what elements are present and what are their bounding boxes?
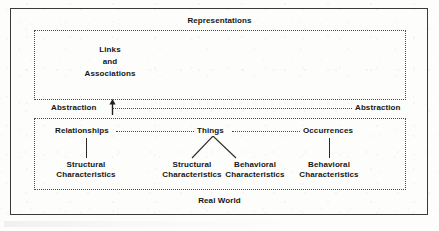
links-line-2: and <box>72 56 148 68</box>
leaf-line-1: Structural <box>160 160 224 170</box>
node-relationships: Relationships <box>52 126 112 136</box>
links-line-1: Links <box>72 44 148 56</box>
leaf-things-behavioral-characteristics: Behavioral Characteristics <box>222 160 288 180</box>
leaf-line-1: Behavioral <box>222 160 288 170</box>
leaf-line-2: Characteristics <box>222 170 288 180</box>
leaf-things-structural-characteristics: Structural Characteristics <box>160 160 224 180</box>
real-world-title: Real World <box>0 196 439 206</box>
links-and-associations-label: Links and Associations <box>72 44 148 80</box>
link-relationships-things <box>116 131 194 132</box>
links-line-3: Associations <box>72 68 148 80</box>
leaf-line-1: Structural <box>54 160 118 170</box>
scan-artifact <box>4 221 304 227</box>
abstraction-up-arrow-icon <box>108 99 117 115</box>
connector-relationships-to-structural <box>86 138 87 158</box>
leaf-line-2: Characteristics <box>296 170 362 180</box>
figure-diagram: Representations Links and Associations A… <box>0 0 439 231</box>
node-occurrences: Occurrences <box>300 126 356 136</box>
node-things: Things <box>194 126 227 136</box>
leaf-line-2: Characteristics <box>160 170 224 180</box>
abstraction-label-right: Abstraction <box>352 103 404 113</box>
leaf-occurrences-behavioral-characteristics: Behavioral Characteristics <box>296 160 362 180</box>
connector-things-fork <box>160 136 266 160</box>
connector-occurrences-to-behavioral <box>329 138 330 158</box>
leaf-relationships-structural-characteristics: Structural Characteristics <box>54 160 118 180</box>
abstraction-dotted-connector <box>112 108 352 109</box>
link-things-occurrences <box>232 131 300 132</box>
abstraction-label-left: Abstraction <box>48 103 100 113</box>
leaf-line-1: Behavioral <box>296 160 362 170</box>
leaf-line-2: Characteristics <box>54 170 118 180</box>
